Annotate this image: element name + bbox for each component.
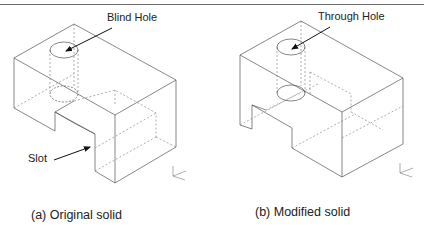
slot-label: Slot <box>28 152 47 164</box>
caption-original-solid: (a) Original solid <box>31 208 122 222</box>
modified-solid <box>240 21 403 177</box>
modified-solid-hidden-lines <box>240 21 403 148</box>
blind-hole-label: Blind Hole <box>107 11 157 23</box>
through-hole-label: Through Hole <box>318 10 385 22</box>
blind-hole-arrow <box>66 28 112 51</box>
triad-icon-a <box>173 166 186 180</box>
figure-canvas <box>0 0 424 239</box>
slot-arrow <box>54 147 90 160</box>
through-hole-arrow <box>292 27 330 49</box>
caption-modified-solid: (b) Modified solid <box>255 205 350 219</box>
triad-icon-b <box>400 163 413 177</box>
